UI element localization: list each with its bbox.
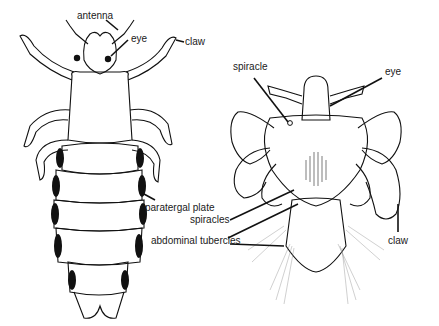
right-eye-icon bbox=[105, 56, 111, 62]
label-paratergal-plate: paratergal plate bbox=[145, 203, 215, 213]
label-eye-right: eye bbox=[385, 67, 401, 77]
label-abdominal-tubercles: abdominal tubercles bbox=[151, 236, 241, 246]
label-antenna: antenna bbox=[77, 11, 113, 21]
label-claw-left: claw bbox=[185, 37, 205, 47]
label-spiracle: spiracle bbox=[233, 62, 267, 72]
left-louse-drawing bbox=[20, 20, 184, 318]
label-spiracles: spiracles bbox=[190, 215, 229, 225]
left-eye-icon bbox=[74, 55, 80, 61]
label-eye-left: eye bbox=[131, 34, 147, 44]
louse-diagram bbox=[0, 0, 439, 326]
right-louse-drawing bbox=[228, 76, 401, 304]
label-claw-right: claw bbox=[388, 236, 408, 246]
